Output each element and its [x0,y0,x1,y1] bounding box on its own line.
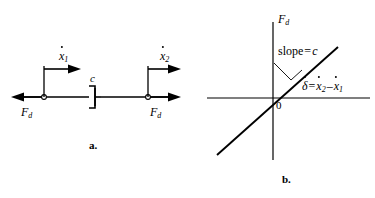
force-right-arrowhead [168,93,181,102]
velocity-right-label: x2 [160,50,169,64]
force-right-label: Fd [150,106,161,120]
velocity-right-arrowhead [168,65,181,74]
slope-leader-line [274,63,302,80]
force-left-label: Fd [21,106,32,120]
y-axis-label: Fd [278,13,289,27]
dashpot-cylinder [89,86,95,108]
panel-b-drawing [190,0,375,198]
panel-a-damper-diagram: x1 x2 c Fd Fd a. [0,0,190,198]
caption-a: a. [89,140,97,151]
panel-a-drawing [0,0,190,198]
figure-root: x1 x2 c Fd Fd a. [0,0,375,198]
caption-b: b. [282,174,291,185]
origin-label: 0 [276,100,282,111]
damper-coefficient-label: c [90,73,95,84]
panel-b-characteristic-plot: Fd slope=c δ=x2–x1 0 b. [190,0,375,198]
velocity-left-label: x1 [59,50,68,64]
force-left-arrowhead [11,93,24,102]
velocity-left-arrowhead [68,65,81,74]
slope-annotation: slope=c [278,45,317,57]
x-axis-equation: δ=x2–x1 [302,80,343,94]
